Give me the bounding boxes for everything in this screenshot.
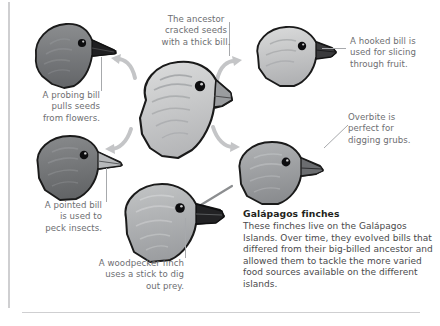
bird-probing-finch	[26, 18, 120, 92]
leader-woodpecker-finch	[185, 218, 186, 258]
caption-block: Galápagos finches These finches live on …	[243, 208, 435, 291]
leader-pointed-bill	[106, 168, 107, 202]
callout-ancestor: The ancestor cracked seeds with a thick …	[146, 14, 246, 48]
bird-hooked-bill-finch	[246, 22, 342, 92]
infographic-canvas: The ancestor cracked seeds with a thick …	[0, 0, 440, 326]
callout-hooked-bill: A hooked bill is used for slicing throug…	[350, 36, 440, 70]
bird-woodpecker-finch	[112, 176, 236, 268]
caption-title: Galápagos finches	[243, 208, 435, 220]
bird-ancestor-finch	[126, 56, 238, 164]
leader-probing-finch	[101, 57, 102, 91]
bottom-divider-rule	[22, 312, 420, 313]
left-border-rule	[8, 2, 10, 308]
callout-pointed-bill: A pointed bill is used to peck insects.	[14, 200, 102, 234]
caption-body: These finches live on the Galápagos Isla…	[243, 221, 435, 291]
callout-woodpecker-finch: A woodpecker finch uses a stick to dig o…	[90, 258, 184, 292]
callout-probing-bill: A probing bill pulls seeds from flowers.	[12, 90, 100, 124]
bird-overbite-finch	[228, 136, 328, 210]
leader-hooked-bill	[322, 48, 346, 49]
leader-overbite	[322, 124, 350, 150]
callout-overbite: Overbite is perfect for digging grubs.	[348, 112, 438, 146]
